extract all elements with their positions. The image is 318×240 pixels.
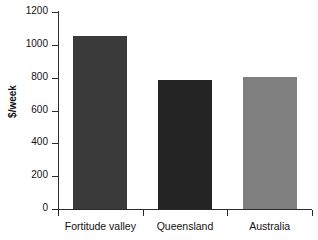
x-tick-mark — [58, 210, 59, 216]
bar-chart: $/week 020040060080010001200 Fortitude v… — [0, 0, 318, 240]
x-tick-mark — [143, 210, 144, 216]
y-tick-label: 200 — [2, 170, 48, 180]
x-tick-label: Australia — [227, 220, 312, 232]
y-tick-label: 1000 — [2, 39, 48, 49]
x-axis-line — [58, 209, 312, 210]
bar-australia — [243, 77, 297, 209]
y-tick-label: 600 — [2, 105, 48, 115]
x-tick-label: Fortitude valley — [58, 220, 143, 232]
bar-queensland — [158, 80, 212, 209]
y-tick-label: 800 — [2, 72, 48, 82]
bar-fortitude-valley — [73, 36, 127, 209]
x-tick-label: Queensland — [143, 220, 228, 232]
x-tick-mark — [227, 210, 228, 216]
y-tick-label: 1200 — [2, 6, 48, 16]
y-tick-label: 400 — [2, 137, 48, 147]
plot-area — [58, 12, 312, 209]
x-tick-mark — [312, 210, 313, 216]
y-tick-label: 0 — [2, 203, 48, 213]
